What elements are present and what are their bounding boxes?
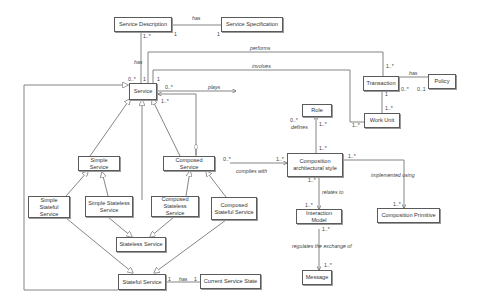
class-policy[interactable]: Policy	[428, 74, 456, 89]
class-interaction-model[interactable]: Interaction Model	[296, 209, 342, 224]
mult-relates-2: 1..*	[305, 202, 313, 208]
class-stateful-service[interactable]: Stateful Service	[118, 274, 166, 290]
label-has-description: has	[134, 59, 142, 65]
mult-involves-1: 1	[157, 76, 160, 82]
class-simple-stateful-service[interactable]: Simple Stateful Service	[28, 196, 70, 218]
mult-desc-spec-1: 1	[174, 31, 177, 37]
class-role[interactable]: Role	[302, 104, 332, 117]
mult-desc-spec-2: 1	[217, 31, 220, 37]
mult-desc-service-1: 1..*	[143, 33, 151, 39]
mult-trans-work-2: 1..*	[385, 105, 393, 111]
class-work-unit[interactable]: Work Unit	[364, 113, 400, 128]
class-composed-stateful-service[interactable]: Composed Stateful Service	[211, 197, 257, 220]
mult-implemented-2: 1..*	[393, 201, 401, 207]
class-stateless-service[interactable]: Stateless Service	[116, 237, 166, 252]
class-service-description[interactable]: Service Description	[114, 17, 172, 32]
mult-defines-2: 1..*	[319, 121, 327, 127]
mult-state-1: 1	[168, 276, 171, 282]
mult-composed-agg: 1..*	[161, 98, 169, 104]
mult-regulates-2: 1..*	[324, 262, 332, 268]
class-simple-service[interactable]: Simple Service	[78, 156, 120, 171]
mult-performs-2: 1..*	[386, 63, 394, 69]
label-plays: plays	[208, 84, 220, 90]
label-has-state: has	[179, 276, 187, 282]
label-has-spec: has	[192, 15, 200, 21]
label-defines: defines	[291, 124, 308, 130]
label-involves: involves	[252, 63, 271, 69]
class-service[interactable]: Service	[129, 83, 157, 100]
label-has-policy: has	[409, 70, 417, 76]
class-composed-stateless-service[interactable]: Composed Stateless Service	[151, 196, 199, 217]
class-current-service-state[interactable]: Current Service State	[200, 274, 261, 289]
mult-implemented-1: 1..*	[348, 153, 356, 159]
class-composition-architectural-style[interactable]: Composition architectural style	[287, 153, 343, 177]
label-regulates: regulates the exchange of	[292, 243, 352, 249]
label-relates-to: relates to	[322, 189, 343, 195]
label-implemented-using: implemented using	[371, 172, 415, 178]
mult-performs-1: 1	[143, 76, 146, 82]
mult-plays-1: 0..*	[165, 84, 173, 90]
mult-involves-2: 1..*	[352, 122, 360, 128]
mult-complies-1: 0..*	[223, 156, 231, 162]
class-transaction[interactable]: Transaction	[363, 76, 399, 91]
mult-regulates-1: 1..*	[322, 226, 330, 232]
mult-desc-service-2: 0..*	[128, 76, 136, 82]
class-service-specification[interactable]: Service Specification	[221, 17, 283, 32]
label-performs: performs	[250, 45, 270, 51]
class-composed-service[interactable]: Composed Service	[163, 156, 215, 171]
class-message[interactable]: Message	[302, 270, 332, 285]
mult-complies-2: 1..*	[276, 156, 284, 162]
mult-policy-1: 0..*	[401, 86, 409, 92]
mult-policy-2: 0..1	[417, 86, 426, 92]
mult-state-2: 1	[194, 276, 197, 282]
class-composition-primitive[interactable]: Composition Primitive	[377, 208, 440, 223]
mult-relates-1: 1..*	[308, 177, 316, 183]
diagram-connectors	[0, 0, 477, 306]
mult-trans-work-1: 1	[385, 91, 388, 97]
mult-role-cas: 1..*	[319, 145, 327, 151]
class-simple-stateless-service[interactable]: Simple Stateless Service	[85, 196, 133, 217]
mult-defines-1: 0..*	[290, 117, 298, 123]
label-complies-with: complies with	[236, 168, 267, 174]
